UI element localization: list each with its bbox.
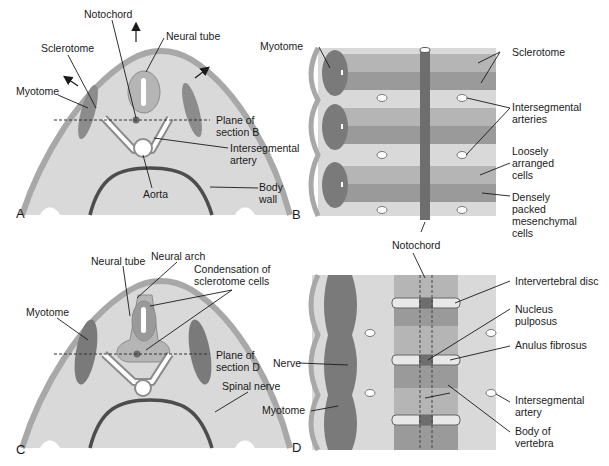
label-np-2: pulposus bbox=[515, 315, 557, 327]
growth-arrow-left bbox=[65, 77, 78, 86]
label-np-1: Nucleus bbox=[515, 303, 553, 315]
label-dense-3: mesenchymal bbox=[512, 215, 577, 227]
myotome-b3 bbox=[322, 162, 348, 208]
panel-letter-b: B bbox=[292, 207, 301, 222]
myotome-b1 bbox=[322, 50, 348, 96]
label-ivd: Intervertebral disc bbox=[515, 275, 598, 287]
label-cond-1: Condensation of bbox=[194, 263, 271, 275]
label-myotome-c: Myotome bbox=[26, 306, 69, 318]
panel-letter-d: D bbox=[292, 440, 301, 455]
notochord-rod bbox=[420, 50, 430, 220]
label-interseg-1: Intersegmental bbox=[230, 142, 299, 154]
label-neural-arch: Neural arch bbox=[151, 250, 205, 262]
label-spinal-nerve: Spinal nerve bbox=[222, 380, 281, 392]
label-dense-1: Densely bbox=[512, 191, 551, 203]
aorta bbox=[134, 139, 152, 157]
label-myotome-b: Myotome bbox=[260, 40, 303, 52]
label-loose-3: cells bbox=[512, 169, 533, 181]
myotome-column bbox=[324, 275, 357, 450]
label-aorta: Aorta bbox=[143, 188, 168, 200]
label-body-d1: Body of bbox=[515, 425, 551, 437]
label-myotome-d: Myotome bbox=[262, 404, 305, 416]
label-sclerotome-b: Sclerotome bbox=[512, 46, 565, 58]
panel-letter-a: A bbox=[16, 206, 25, 221]
panel-letter-c: C bbox=[16, 442, 25, 457]
label-plane-c1: Plane of bbox=[216, 349, 255, 361]
label-plane-2: section B bbox=[216, 126, 259, 138]
label-interseg-d2: artery bbox=[515, 406, 543, 418]
label-plane-1: Plane of bbox=[216, 114, 255, 126]
label-body-1: Body bbox=[259, 181, 284, 193]
label-loose-1: Loosely bbox=[512, 145, 549, 157]
panel-c: Neural tube Neural arch Condensation of … bbox=[16, 250, 290, 457]
label-sclerotome: Sclerotome bbox=[41, 42, 94, 54]
label-nerve: Nerve bbox=[273, 357, 301, 369]
panel-a: Notochord Neural tube Sclerotome Myotome… bbox=[16, 8, 299, 221]
panel-b: Myotome Sclerotome Intersegmental arteri… bbox=[260, 40, 581, 251]
panel-d: Intervertebral disc Nucleus pulposus Anu… bbox=[262, 253, 598, 455]
label-myotome: Myotome bbox=[16, 85, 59, 97]
label-loose-2: arranged bbox=[512, 157, 554, 169]
somite-differentiation-figure: Notochord Neural tube Sclerotome Myotome… bbox=[0, 0, 609, 466]
label-notochord-b: Notochord bbox=[392, 239, 441, 251]
label-interseg-b2: arteries bbox=[512, 113, 547, 125]
label-body-2: wall bbox=[258, 193, 277, 205]
label-notochord: Notochord bbox=[84, 8, 133, 20]
label-dense-2: packed bbox=[512, 203, 546, 215]
label-neural-tube-c: Neural tube bbox=[91, 255, 145, 267]
label-plane-c2: section D bbox=[216, 361, 260, 373]
label-interseg-b1: Intersegmental bbox=[512, 101, 581, 113]
label-dense-4: cells bbox=[512, 227, 533, 239]
label-cond-2: sclerotome cells bbox=[194, 275, 269, 287]
label-interseg-2: artery bbox=[230, 154, 258, 166]
label-body-d2: vertebra bbox=[515, 437, 554, 449]
label-neural-tube: Neural tube bbox=[166, 30, 220, 42]
label-af: Anulus fibrosus bbox=[515, 339, 587, 351]
myotome-b2 bbox=[322, 104, 348, 150]
label-interseg-d1: Intersegmental bbox=[515, 394, 584, 406]
